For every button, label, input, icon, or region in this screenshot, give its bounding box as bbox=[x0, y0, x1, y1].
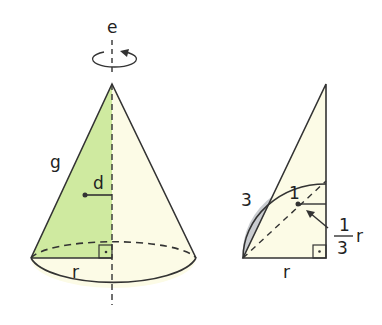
cone-radius-label: r bbox=[72, 262, 79, 282]
label-1: 1 bbox=[289, 183, 300, 203]
axis-label: e bbox=[107, 17, 117, 37]
label-3: 3 bbox=[241, 190, 252, 210]
centroid-point bbox=[83, 193, 88, 198]
triangle-figure: 3 1 1 3 r r bbox=[241, 84, 363, 282]
rotation-arrow-icon bbox=[93, 52, 137, 67]
distance-label: d bbox=[93, 173, 104, 193]
fraction-denominator: 3 bbox=[337, 238, 348, 258]
cone-right-half bbox=[112, 84, 196, 288]
fraction-numerator: 1 bbox=[339, 215, 350, 235]
cone-figure: e g d r bbox=[31, 17, 196, 305]
triangle-radius-label: r bbox=[283, 262, 290, 282]
slant-label: g bbox=[50, 152, 61, 172]
fraction-variable: r bbox=[356, 226, 363, 246]
cone-diagram: e g d r 3 1 1 3 r r bbox=[0, 0, 382, 325]
